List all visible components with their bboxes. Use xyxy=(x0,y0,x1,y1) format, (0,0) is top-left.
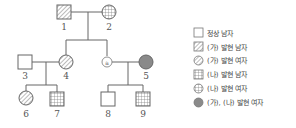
label-1: 1 xyxy=(61,22,67,32)
label-5: 5 xyxy=(143,71,149,81)
legend-item-na-male: (나) 발현 남자 xyxy=(194,70,248,79)
label-6: 6 xyxy=(23,109,29,119)
marker-a-label: a xyxy=(105,59,109,66)
individual-8 xyxy=(101,92,115,106)
legend: 정상 남자 (가) 발현 남자 (가) 발현 여자 (나) 발현 남자 (나) … xyxy=(194,28,264,107)
individual-1 xyxy=(57,5,71,19)
mating-line-1-2 xyxy=(66,12,107,56)
legend-item-normal-male: 정상 남자 xyxy=(194,28,234,38)
svg-text:(가), (나) 발현 여자: (가), (나) 발현 여자 xyxy=(207,98,264,107)
individual-2 xyxy=(102,5,116,19)
pedigree-diagram: 1 2 3 4 a 5 6 7 8 xyxy=(0,0,296,128)
svg-text:(나) 발현 여자: (나) 발현 여자 xyxy=(207,84,248,93)
legend-item-ga-female: (가) 발현 여자 xyxy=(194,56,248,65)
individual-9 xyxy=(136,92,150,106)
legend-item-ga-male: (가) 발현 남자 xyxy=(194,42,248,52)
label-2: 2 xyxy=(106,22,112,32)
individual-a: a xyxy=(102,57,112,67)
mating-line-a-5 xyxy=(108,62,143,92)
label-4: 4 xyxy=(63,71,69,81)
individual-6 xyxy=(19,91,33,105)
svg-text:(나) 발현 남자: (나) 발현 남자 xyxy=(207,70,248,79)
legend-item-both-female: (가), (나) 발현 여자 xyxy=(194,98,264,107)
individual-4 xyxy=(59,55,73,69)
individual-3 xyxy=(18,55,32,69)
svg-text:정상 남자: 정상 남자 xyxy=(207,29,234,38)
individual-5 xyxy=(139,55,153,69)
svg-text:(가) 발현 남자: (가) 발현 남자 xyxy=(207,43,248,52)
label-3: 3 xyxy=(22,71,28,81)
label-7: 7 xyxy=(54,109,60,119)
svg-text:(가) 발현 여자: (가) 발현 여자 xyxy=(207,56,248,65)
label-8: 8 xyxy=(105,109,111,119)
individual-7 xyxy=(50,92,64,106)
label-9: 9 xyxy=(140,109,146,119)
legend-item-na-female: (나) 발현 여자 xyxy=(194,84,248,93)
